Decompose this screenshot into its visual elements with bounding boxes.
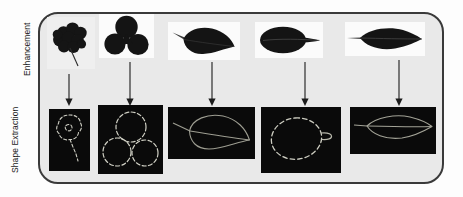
leaf-processing-figure: Enhancement Shape Extraction [0,0,463,197]
pipeline-arrows [0,0,463,197]
arrow-column-2 [126,62,133,106]
arrow-column-4 [301,62,308,106]
arrow-column-1 [65,74,72,106]
arrow-column-3 [208,62,215,106]
arrow-column-5 [395,60,402,106]
